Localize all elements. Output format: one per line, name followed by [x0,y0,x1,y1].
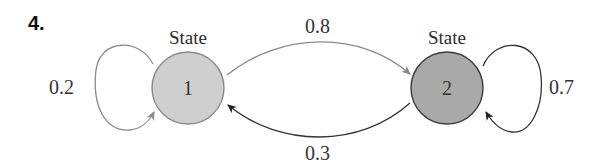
state-1-title: State [169,27,207,48]
transition-2-1-arrow [228,103,410,137]
state-2-label: 2 [442,77,452,99]
self-loop-2-arrow [483,45,541,132]
state-2-title: State [428,27,466,48]
prob-2-2: 0.7 [549,76,574,98]
prob-1-2: 0.8 [305,15,330,37]
state-2-node: State 2 [411,27,483,124]
transition-1-2-arrow [227,42,410,75]
prob-1-1: 0.2 [49,76,74,98]
state-1-node: State 1 [152,27,224,124]
self-loop-1-arrow [95,45,154,130]
prob-2-1: 0.3 [305,142,330,164]
state-1-label: 1 [183,77,193,99]
markov-chain-diagram: 0.2 0.8 0.3 0.7 State 1 State 2 [0,0,590,166]
